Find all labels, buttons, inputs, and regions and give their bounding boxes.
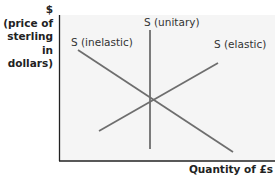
unitary-curve-label: S (unitary) — [144, 16, 200, 29]
y-axis-label-line: (price of — [0, 17, 53, 31]
inelastic-curve-label: S (inelastic) — [71, 36, 133, 49]
y-axis-label-line: sterling in — [0, 30, 53, 57]
y-axis-label-line: dollars) — [0, 57, 53, 71]
y-axis-label: $ (price of sterling in dollars) — [0, 3, 53, 71]
elastic-curve-label: S (elastic) — [214, 38, 266, 51]
y-axis-symbol: $ — [0, 3, 53, 17]
x-axis-label: Quantity of £s — [189, 163, 273, 175]
